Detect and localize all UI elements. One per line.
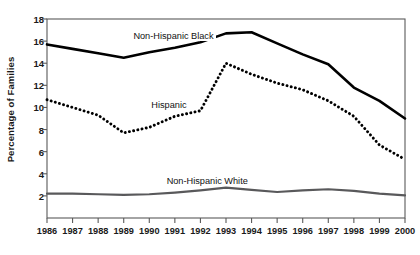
series-label-non-hispanic-black: Non-Hispanic Black [131, 31, 215, 41]
chart-figure: Percentage of Families 24681012141618 19… [0, 0, 420, 255]
series-label-hispanic: Hispanic [149, 100, 188, 110]
series-label-non-hispanic-white: Non-Hispanic White [165, 176, 250, 186]
series-annotations: Non-Hispanic BlackHispanicNon-Hispanic W… [0, 0, 420, 255]
